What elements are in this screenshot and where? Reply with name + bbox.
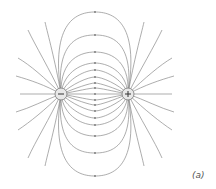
dipole-field-diagram — [0, 0, 216, 189]
direction-arrows — [94, 11, 96, 177]
negative-charge — [55, 88, 67, 100]
positive-charge — [122, 88, 134, 100]
figure-label: (a) — [192, 170, 205, 180]
